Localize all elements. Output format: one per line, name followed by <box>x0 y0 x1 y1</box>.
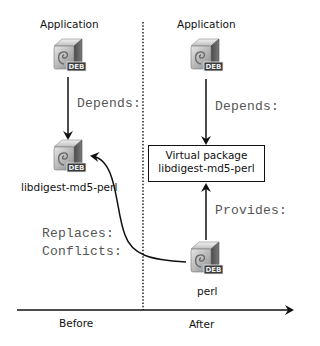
before-application-deb-icon <box>54 39 86 71</box>
libdigest-deb-icon <box>54 140 86 172</box>
conflicts-label: Conflicts: <box>42 244 122 259</box>
libdigest-package-label: libdigest-md5-perl <box>21 181 117 193</box>
perl-package-label: perl <box>197 285 217 297</box>
perl-deb-icon <box>191 242 223 274</box>
virtual-package-name: libdigest-md5-perl <box>149 162 264 175</box>
provides-label: Provides: <box>215 203 287 218</box>
virtual-package-box: Virtual package libdigest-md5-perl <box>148 145 265 182</box>
replaces-label: Replaces: <box>42 226 114 241</box>
after-application-deb-icon <box>191 39 223 71</box>
after-application-label: Application <box>177 18 236 30</box>
before-depends-label: Depends: <box>77 96 141 111</box>
before-application-label: Application <box>40 18 99 30</box>
after-depends-label: Depends: <box>215 99 279 114</box>
virtual-package-title: Virtual package <box>149 149 264 162</box>
timeline-after-label: After <box>189 318 214 330</box>
timeline-before-label: Before <box>59 317 93 329</box>
